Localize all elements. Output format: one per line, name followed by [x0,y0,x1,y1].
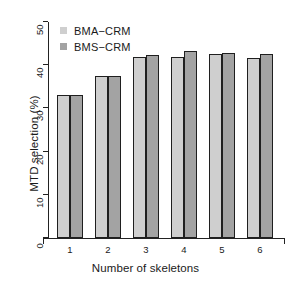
x-axis-tick-label: 2 [98,244,118,255]
bar [57,95,70,238]
bar-group [171,22,197,238]
legend-label: BMS−CRM [74,41,131,53]
bar [209,54,222,238]
y-axis-tick-label: 50 [35,22,45,38]
y-axis-tick-label: 20 [35,151,45,167]
bar-group [133,22,159,238]
bar-group [95,22,121,238]
legend-swatch-icon [60,43,67,50]
x-axis-tick-label: 6 [250,244,270,255]
y-axis-tick-label: 10 [35,195,45,211]
bar [247,58,260,238]
legend-swatch-icon [60,27,67,34]
bar-group [209,22,235,238]
y-axis-tick-label: 40 [35,65,45,81]
legend-item: BMS−CRM [60,40,131,53]
x-axis-tick-label: 5 [212,244,232,255]
bar [95,76,108,238]
x-axis-tick-label: 4 [174,244,194,255]
bar [171,57,184,238]
bar [70,95,83,238]
x-axis-endcap [284,239,285,244]
bar-chart-figure: MTD selection (%) 01020304050 Number of … [0,0,291,287]
bar-group [57,22,83,238]
bar [184,51,197,238]
bar [260,54,273,238]
x-axis-tick-label: 3 [136,244,156,255]
legend-label: BMA−CRM [74,25,131,37]
bar-group [247,22,273,238]
bar [133,57,146,238]
y-axis-tick-label: 30 [35,108,45,124]
x-axis-title: Number of skeletons [0,262,291,274]
bar [222,53,235,238]
legend: BMA−CRMBMS−CRM [60,24,131,53]
legend-item: BMA−CRM [60,24,131,37]
x-axis-tick-label: 1 [60,244,80,255]
x-axis-endcap [43,239,44,244]
bar [108,76,121,238]
plot-area [48,22,283,238]
bar [146,55,159,238]
